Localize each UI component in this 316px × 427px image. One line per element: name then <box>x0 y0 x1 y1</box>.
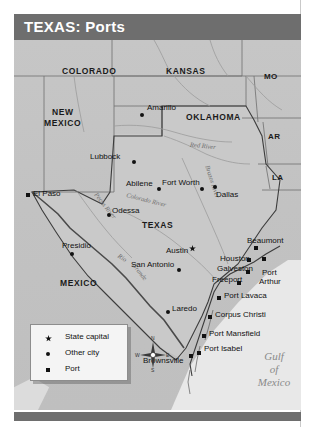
legend-label-other-city: Other city <box>65 348 99 357</box>
gulf-label-line2: of <box>246 363 301 376</box>
city-label-laredo: Laredo <box>172 304 197 313</box>
port-marker-brownsville[interactable] <box>189 354 193 358</box>
city-marker-dallas[interactable] <box>213 185 217 189</box>
city-label-corpus-christi: Corpus Christi <box>215 310 266 319</box>
city-marker-presidio[interactable] <box>70 252 74 256</box>
river-ok-1 <box>174 76 210 106</box>
map-title: TEXAS: Ports <box>24 18 125 35</box>
state-label-new-mexico-line1: NEW <box>52 107 74 117</box>
city-label-dallas: Dallas <box>216 190 238 199</box>
state-label-louisiana: LA <box>272 173 283 182</box>
city-marker-san-antonio[interactable] <box>177 268 181 272</box>
gulf-label-line1: Gulf <box>246 350 301 363</box>
gulf-label-line3: Mexico <box>246 376 301 389</box>
city-label-odessa: Odessa <box>112 206 140 215</box>
city-label-austin: Austin <box>166 246 188 255</box>
city-marker-el-paso[interactable] <box>26 193 30 197</box>
city-marker-lubbock[interactable] <box>132 160 136 164</box>
texas-state-fill <box>32 106 282 358</box>
city-label-port-arthur-line2: Arthur <box>259 277 281 286</box>
right-side-panel <box>300 0 316 427</box>
state-label-missouri: MO <box>264 72 278 81</box>
port-marker-port-arthur[interactable] <box>262 257 266 261</box>
city-label-houston: Houston <box>220 254 250 263</box>
city-label-amarillo: Amarillo <box>147 103 176 112</box>
footer-bar <box>14 412 301 421</box>
city-label-abilene: Abilene <box>126 179 153 188</box>
state-capital-icon <box>45 335 52 342</box>
port-marker-port-mansfield[interactable] <box>202 334 206 338</box>
city-label-beaumont: Beaumont <box>247 236 283 245</box>
river-north-3 <box>210 40 228 76</box>
map-page: TEXAS: Ports <box>0 0 316 427</box>
city-label-fort-worth: Fort Worth <box>162 178 200 187</box>
city-label-galveston: Galveston <box>217 264 253 273</box>
state-label-new-mexico-line2: MEXICO <box>44 118 81 128</box>
port-icon <box>46 368 50 372</box>
other-city-icon <box>46 352 50 356</box>
state-label-colorado: COLORADO <box>62 66 116 76</box>
map-title-bar: TEXAS: Ports <box>14 14 301 40</box>
city-label-port-lavaca: Port Lavaca <box>224 291 267 300</box>
city-marker-amarillo[interactable] <box>140 113 144 117</box>
city-label-san-antonio: San Antonio <box>131 260 174 269</box>
city-label-port-mansfield: Port Mansfield <box>209 329 260 338</box>
city-label-presidio: Presidio <box>62 241 91 250</box>
water-label-gulf-of-mexico: Gulf of Mexico <box>246 350 301 389</box>
legend-label-state-capital: State capital <box>65 332 109 341</box>
river-ark <box>246 76 282 110</box>
state-label-arkansas: AR <box>268 132 280 141</box>
city-label-el-paso: El Paso <box>33 189 61 198</box>
port-marker-port-lavaca[interactable] <box>217 296 221 300</box>
texas-ports-map: TEXAS: Ports <box>14 14 301 410</box>
legend-item-state-capital: State capital <box>31 330 127 346</box>
state-label-texas: TEXAS <box>142 220 173 230</box>
legend-item-port: Port <box>31 362 127 378</box>
port-marker-beaumont[interactable] <box>254 246 258 250</box>
compass-rose: N S W E <box>136 336 170 372</box>
legend-item-other-city: Other city <box>31 346 127 362</box>
city-marker-abilene[interactable] <box>157 187 161 191</box>
compass-label-east: E <box>166 352 169 358</box>
country-label-mexico: MEXICO <box>60 278 97 288</box>
state-label-oklahoma: OKLAHOMA <box>186 112 241 122</box>
port-marker-corpus-christi[interactable] <box>208 315 212 319</box>
city-marker-laredo[interactable] <box>166 310 170 314</box>
city-label-port-arthur-line1: Port <box>262 268 277 277</box>
city-label-lubbock: Lubbock <box>90 152 120 161</box>
compass-label-north: N <box>151 335 155 341</box>
map-legend: State capital Other city Port <box>30 324 128 381</box>
city-marker-fort-worth[interactable] <box>200 187 204 191</box>
compass-label-west: W <box>135 352 140 358</box>
city-label-freeport: Freeport <box>212 275 242 284</box>
compass-label-south: S <box>151 367 154 373</box>
state-label-kansas: KANSAS <box>166 66 206 76</box>
city-label-port-isabel: Port Isabel <box>204 344 242 353</box>
city-marker-odessa[interactable] <box>107 213 111 217</box>
port-marker-port-isabel[interactable] <box>197 351 201 355</box>
legend-label-port: Port <box>65 364 80 373</box>
